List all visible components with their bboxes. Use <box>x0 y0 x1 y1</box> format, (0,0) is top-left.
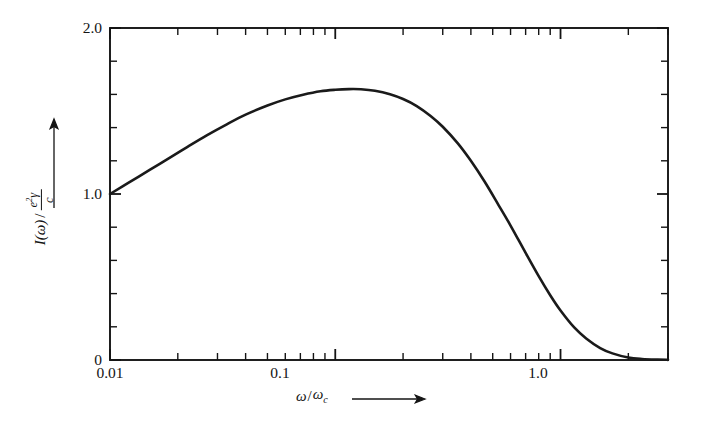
x-axis-direction-arrow <box>352 395 425 403</box>
x-tick-label-1point0: 1.0 <box>512 364 564 382</box>
x-axis-label-omega-c-subscript: c <box>323 394 328 405</box>
x-axis-label-omega-c-base: ω <box>313 386 324 402</box>
y-axis-label-intensity: I(ω) <box>33 220 48 246</box>
axis-ticks <box>110 28 668 360</box>
y-axis-label-e: e <box>26 202 40 208</box>
figure-container: 2.0 1.0 0 0.01 0.1 1.0 I(ω) / e2γ c ω / … <box>0 0 701 430</box>
x-axis-label-slash: / <box>308 389 312 404</box>
x-axis-label-omega-c: ωc <box>313 387 328 405</box>
x-tick-label-0point01: 0.01 <box>81 364 139 382</box>
y-axis-label-slash: / <box>33 214 48 218</box>
x-axis-label-omega: ω <box>296 389 307 404</box>
y-axis-label-gamma: γ <box>26 193 40 198</box>
plot-frame <box>110 28 668 360</box>
x-axis-label: ω / ωc <box>296 387 328 405</box>
y-tick-label-2: 2.0 <box>62 19 102 37</box>
y-axis-label-exponent: 2 <box>24 198 34 202</box>
x-tick-label-0point1: 0.1 <box>254 364 306 382</box>
y-axis-label-numerator: e2γ <box>25 190 41 211</box>
y-axis-label: I(ω) / e2γ c <box>18 112 62 322</box>
y-axis-label-denominator: c <box>41 190 56 211</box>
data-curve <box>110 89 668 360</box>
y-axis-label-fraction: e2γ c <box>25 190 55 211</box>
y-tick-label-1: 1.0 <box>62 185 102 203</box>
